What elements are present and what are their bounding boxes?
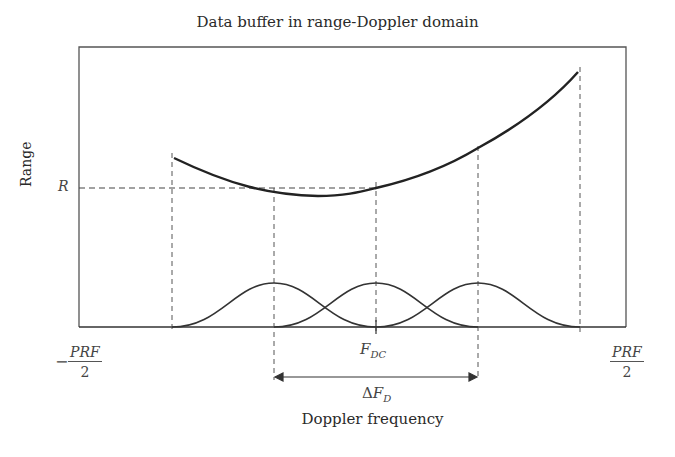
- doppler-centroid-label: FDC: [360, 340, 386, 360]
- range-r-label: R: [58, 178, 69, 194]
- fdc-main: F: [360, 340, 370, 358]
- x-axis-label: Doppler frequency: [0, 410, 675, 428]
- doppler-bandwidth-label: ΔFD: [362, 384, 391, 404]
- right-limit-numerator: PRF: [610, 343, 644, 362]
- plot-frame: [79, 47, 626, 327]
- fdc-sub: DC: [370, 349, 386, 360]
- y-axis-label: Range: [18, 142, 34, 187]
- left-limit-denominator: 2: [68, 362, 102, 382]
- right-limit-prf-half: PRF 2: [610, 343, 644, 382]
- dfd-main: F: [373, 384, 383, 402]
- dfd-sub: D: [383, 393, 391, 404]
- diagram-canvas: [0, 0, 675, 457]
- left-limit-prf-half: PRF 2: [68, 343, 102, 382]
- right-limit-denominator: 2: [610, 362, 644, 382]
- left-limit-numerator: PRF: [68, 343, 102, 362]
- bandwidth-arrow: [275, 373, 477, 381]
- negative-sign: −: [55, 352, 68, 371]
- range-migration-curve: [174, 72, 578, 196]
- delta-symbol: Δ: [362, 384, 373, 402]
